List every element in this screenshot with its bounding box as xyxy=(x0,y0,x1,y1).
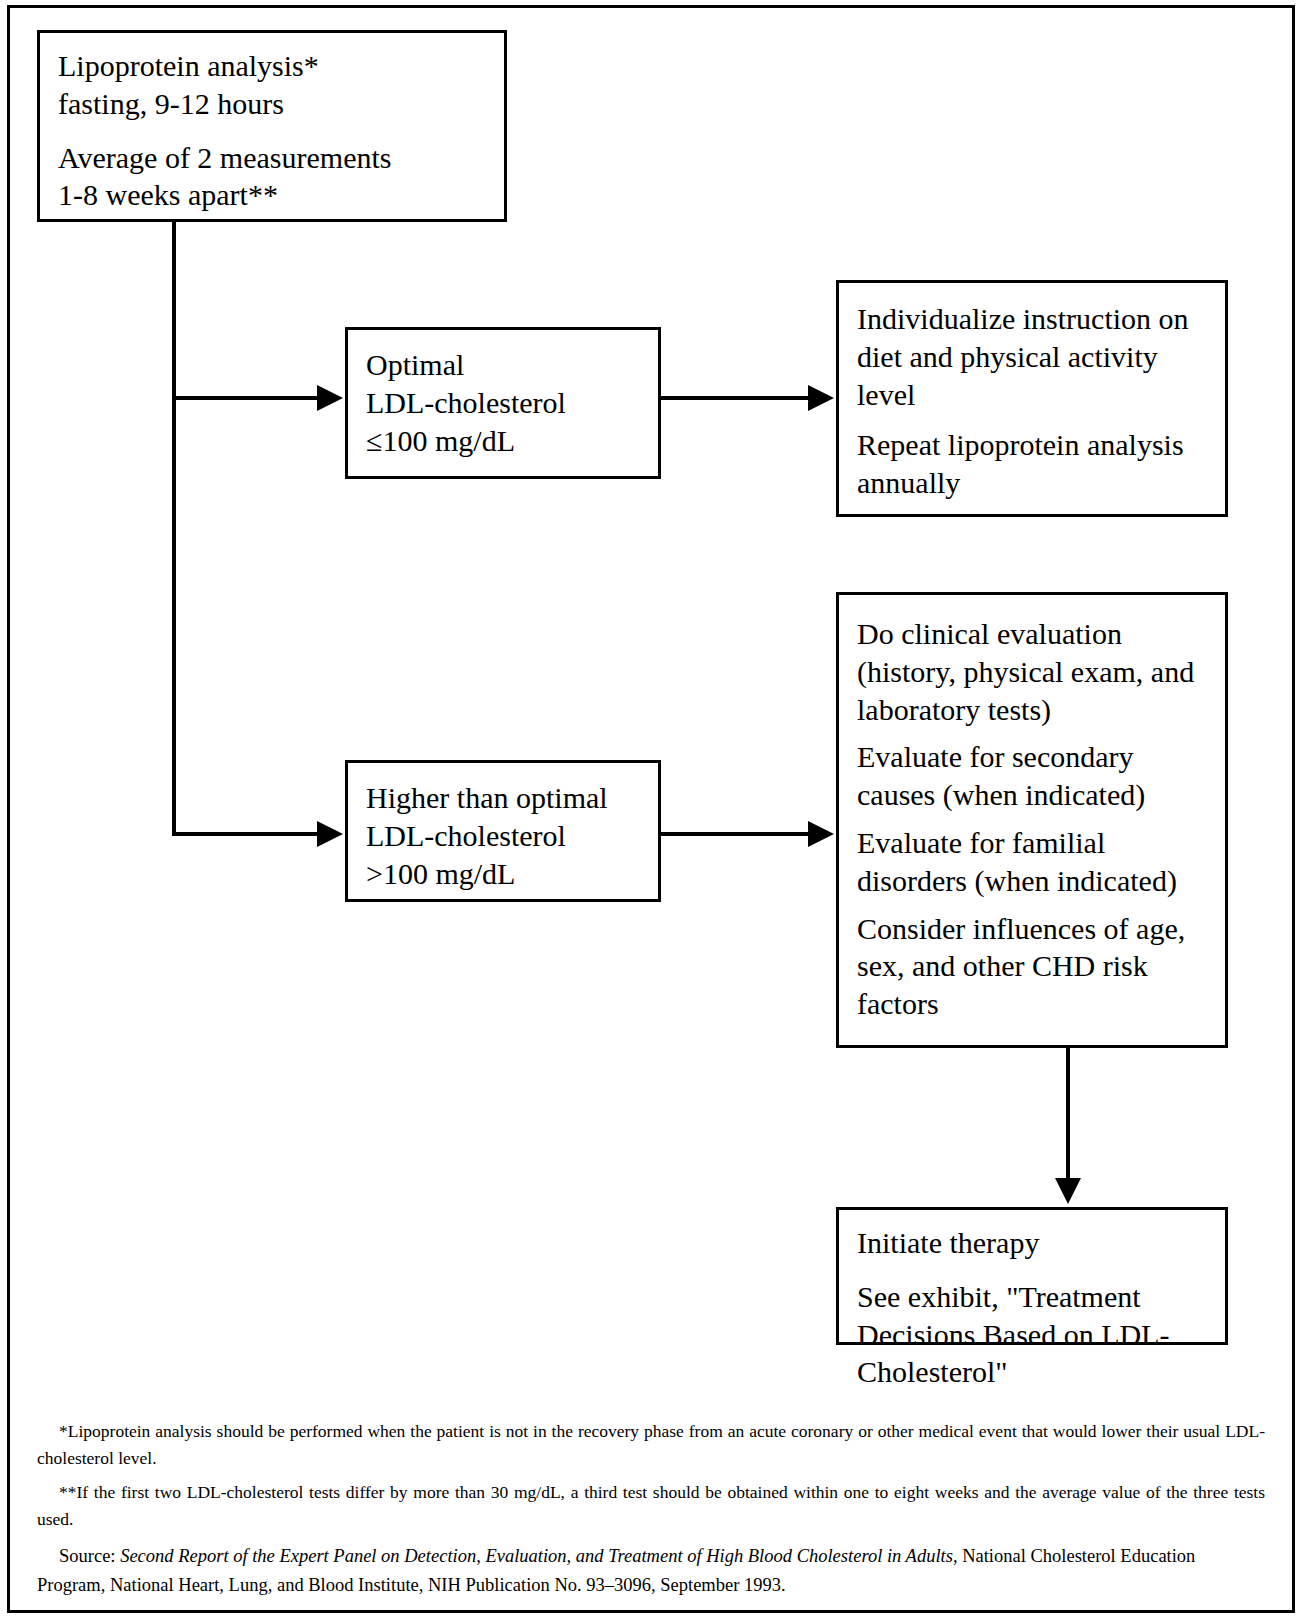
arrowhead-to-optimal-icon xyxy=(317,385,343,411)
node-initiate-therapy[interactable]: Initiate therapy See exhibit, "Treatment… xyxy=(836,1207,1228,1345)
node-optimal-line-1: Optimal xyxy=(366,348,464,381)
node-initiate-para-2: See exhibit, "Treatment Decisions Based … xyxy=(857,1278,1209,1391)
arrowhead-to-higher-icon xyxy=(317,821,343,847)
node-lipoprotein-analysis[interactable]: Lipoprotein analysis* fasting, 9-12 hour… xyxy=(37,30,507,222)
node-higher-than-optimal-ldl[interactable]: Higher than optimal LDL-cholesterol >100… xyxy=(345,760,661,902)
arrowhead-to-clinical-icon xyxy=(808,821,834,847)
node-optimal-line-3: ≤100 mg/dL xyxy=(366,424,515,457)
node-individualize-instruction[interactable]: Individualize instruction on diet and ph… xyxy=(836,280,1228,517)
node-optimal-line-2: LDL-cholesterol xyxy=(366,386,566,419)
footnote-asterisk: *Lipoprotein analysis should be performe… xyxy=(37,1418,1265,1471)
node-higher-line-1: Higher than optimal xyxy=(366,781,608,814)
node-lipoprotein-para-1: Lipoprotein analysis* fasting, 9-12 hour… xyxy=(58,47,488,123)
node-clinical-para-1: Do clinical evaluation (history, physica… xyxy=(857,615,1209,728)
node-clinical-para-3: Evaluate for familial disorders (when in… xyxy=(857,824,1209,900)
connector-trunk-vertical xyxy=(172,222,176,836)
source-line: Source: Second Report of the Expert Pane… xyxy=(37,1542,1265,1599)
connector-branch-optimal-horizontal xyxy=(172,396,320,400)
source-block: Source: Second Report of the Expert Pane… xyxy=(37,1542,1265,1599)
node-optimal-body: Optimal LDL-cholesterol ≤100 mg/dL xyxy=(366,346,642,459)
node-lipoprotein-line-1: Lipoprotein analysis* xyxy=(58,49,319,82)
connector-branch-higher-horizontal xyxy=(172,832,320,836)
node-lipoprotein-para-2: Average of 2 measurements 1-8 weeks apar… xyxy=(58,139,488,215)
arrowhead-to-initiate-icon xyxy=(1055,1178,1081,1204)
node-higher-line-2: LDL-cholesterol xyxy=(366,819,566,852)
connector-clinical-to-initiate xyxy=(1066,1048,1070,1181)
node-individualize-para-1: Individualize instruction on diet and ph… xyxy=(857,300,1209,413)
node-individualize-para-2: Repeat lipoprotein analysis annually xyxy=(857,426,1209,502)
source-title: Second Report of the Expert Panel on Det… xyxy=(120,1546,953,1566)
node-clinical-para-4: Consider influences of age, sex, and oth… xyxy=(857,910,1209,1023)
footnotes-block: *Lipoprotein analysis should be performe… xyxy=(37,1418,1265,1540)
connector-higher-to-clinical xyxy=(661,832,811,836)
node-higher-line-3: >100 mg/dL xyxy=(366,857,515,890)
page-canvas: Lipoprotein analysis* fasting, 9-12 hour… xyxy=(0,0,1306,1621)
node-lipoprotein-line-4: 1-8 weeks apart** xyxy=(58,178,278,211)
flowchart-diagram: Lipoprotein analysis* fasting, 9-12 hour… xyxy=(0,0,1306,1621)
footnote-double-asterisk: **If the first two LDL-cholesterol tests… xyxy=(37,1479,1265,1532)
node-clinical-para-2: Evaluate for secondary causes (when indi… xyxy=(857,738,1209,814)
node-lipoprotein-line-2: fasting, 9-12 hours xyxy=(58,87,284,120)
node-initiate-para-1: Initiate therapy xyxy=(857,1224,1209,1262)
connector-optimal-to-individualize xyxy=(661,396,811,400)
source-label: Source: xyxy=(59,1546,120,1566)
arrowhead-to-individualize-icon xyxy=(808,385,834,411)
node-optimal-ldl[interactable]: Optimal LDL-cholesterol ≤100 mg/dL xyxy=(345,327,661,479)
node-clinical-evaluation[interactable]: Do clinical evaluation (history, physica… xyxy=(836,592,1228,1048)
node-higher-body: Higher than optimal LDL-cholesterol >100… xyxy=(366,779,642,892)
node-lipoprotein-line-3: Average of 2 measurements xyxy=(58,141,391,174)
